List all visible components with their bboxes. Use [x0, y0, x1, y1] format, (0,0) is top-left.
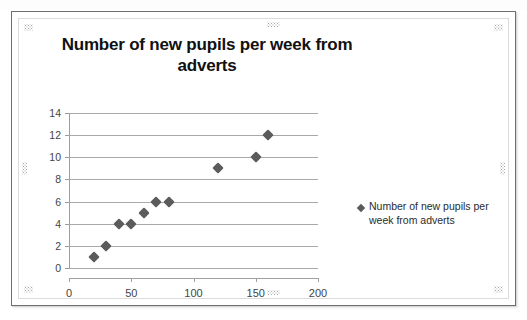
- chart-legend[interactable]: Number of new pupils per week from adver…: [357, 199, 507, 227]
- gridline: [69, 113, 318, 114]
- resize-handle-top-left[interactable]: [24, 24, 33, 31]
- plot-area: [69, 113, 318, 268]
- x-axis-tick: [69, 278, 70, 282]
- legend-entry-label: Number of new pupils per week from adver…: [369, 199, 509, 227]
- y-axis-tick-label: 10: [27, 152, 61, 162]
- resize-handle-bottom-left[interactable]: [24, 286, 33, 293]
- x-axis-tick: [131, 278, 132, 282]
- resize-handle-middle-left[interactable]: [22, 162, 27, 175]
- x-axis-tick: [194, 278, 195, 282]
- y-axis-tick-label: 4: [27, 219, 61, 229]
- data-point-diamond-icon: [150, 196, 161, 207]
- resize-handle-bottom-right[interactable]: [494, 286, 503, 293]
- data-point-diamond-icon: [101, 240, 112, 251]
- chart[interactable]: Number of new pupils per week from adver…: [19, 19, 509, 299]
- chart-title: Number of new pupils per week from adver…: [47, 34, 367, 77]
- resize-handle-middle-right[interactable]: [500, 162, 505, 175]
- data-point-diamond-icon: [113, 218, 124, 229]
- y-axis-tick-label: 6: [27, 197, 61, 207]
- data-point-diamond-icon: [126, 218, 137, 229]
- x-axis-tick: [318, 278, 319, 282]
- y-axis-tick-label: 12: [27, 130, 61, 140]
- x-axis-tick-label: 200: [298, 287, 338, 299]
- gridline: [69, 224, 318, 225]
- resize-handle-top-center[interactable]: [267, 22, 280, 27]
- x-axis-tick-label: 0: [49, 287, 89, 299]
- resize-handle-top-right[interactable]: [494, 24, 503, 31]
- data-point-diamond-icon: [213, 163, 224, 174]
- gridline: [69, 157, 318, 158]
- x-axis-tick-label: 100: [174, 287, 214, 299]
- y-axis-tick-label: 14: [27, 108, 61, 118]
- data-point-diamond-icon: [138, 207, 149, 218]
- chart-object-inner: Number of new pupils per week from adver…: [18, 18, 509, 299]
- gridline: [69, 202, 318, 203]
- gridline: [69, 135, 318, 136]
- resize-handle-bottom-center[interactable]: [267, 290, 280, 295]
- data-point-diamond-icon: [88, 251, 99, 262]
- chart-object-frame[interactable]: Number of new pupils per week from adver…: [11, 11, 516, 306]
- slide-top-band: [0, 0, 527, 10]
- data-point-diamond-icon: [263, 129, 274, 140]
- x-axis-tick-label: 50: [111, 287, 151, 299]
- gridline: [69, 268, 318, 269]
- legend-diamond-icon: [357, 204, 365, 212]
- data-point-diamond-icon: [163, 196, 174, 207]
- y-axis-tick-label: 0: [27, 263, 61, 273]
- x-axis-tick: [256, 278, 257, 282]
- data-point-diamond-icon: [250, 152, 261, 163]
- gridline: [69, 179, 318, 180]
- y-axis-tick-label: 8: [27, 174, 61, 184]
- y-axis-line: [69, 113, 70, 268]
- y-axis-tick-label: 2: [27, 241, 61, 251]
- slide-canvas: Number of new pupils per week from adver…: [0, 0, 527, 320]
